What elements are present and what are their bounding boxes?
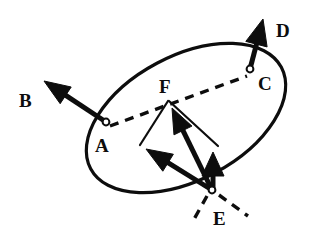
arrow-E-to-A-line-head [146,149,173,171]
label-E: E [213,209,226,228]
arrow-B-shaft [62,93,106,122]
point-marker-A [103,119,110,126]
dash-E-lower-left [193,196,207,221]
label-D: D [276,21,290,40]
point-marker-E [209,187,216,194]
arrow-E-to-right-head [202,152,224,176]
label-C: C [258,74,272,93]
arrow-B [44,81,106,122]
label-F: F [159,77,171,96]
diagram-canvas: A B C D E F [0,0,324,244]
arrow-B-head [44,81,71,104]
point-marker-C [247,66,254,73]
label-B: B [19,91,32,110]
thin-F-to-west [140,101,168,145]
arrow-D-head [246,19,267,47]
dashed-lines-group [110,76,248,221]
label-A: A [95,136,109,155]
